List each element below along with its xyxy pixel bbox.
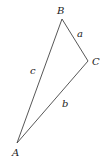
vertex-label-c: C xyxy=(92,56,100,67)
triangle-diagram: B C A a b c xyxy=(0,0,103,161)
side-label-a: a xyxy=(77,28,83,39)
vertex-label-a: A xyxy=(11,147,19,158)
side-label-c: c xyxy=(30,65,36,76)
side-label-b: b xyxy=(62,98,68,109)
vertex-label-b: B xyxy=(56,5,64,16)
